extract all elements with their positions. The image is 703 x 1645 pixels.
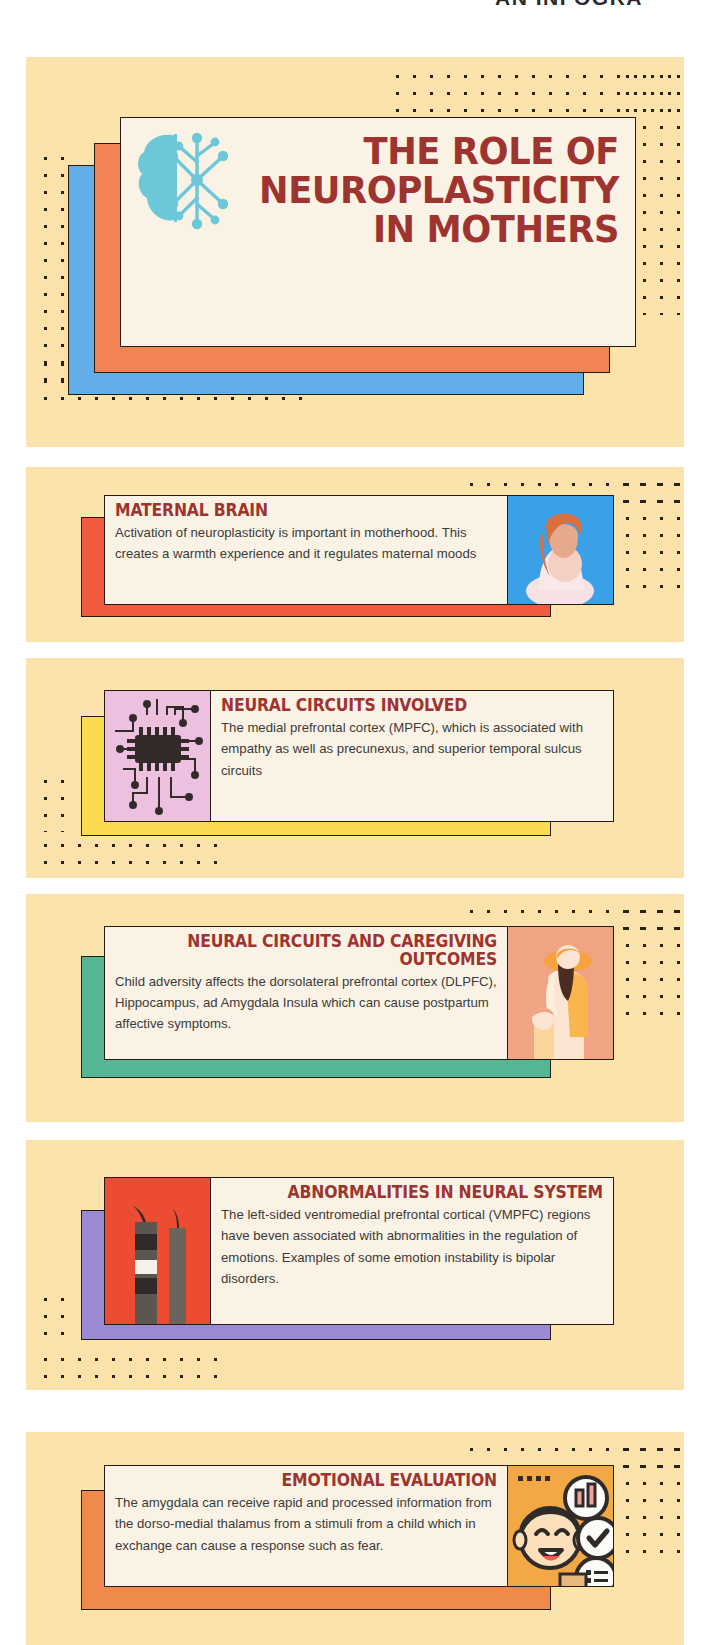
dot-grid-top-right (386, 65, 684, 119)
card-body: The medial prefrontal cortex (MPFC), whi… (221, 717, 603, 781)
dot-grid-right-column (616, 473, 684, 597)
card-neural-circuits-involved: NEURAL CIRCUITS INVOLVED The medial pref… (104, 690, 614, 822)
card-panel-maternal-brain: MATERNAL BRAIN Activation of neuroplasti… (26, 467, 684, 642)
dot-grid-right-column (616, 900, 684, 1028)
dot-grid-bottom-left (34, 147, 72, 387)
microchip-circuit-illustration (105, 691, 211, 821)
card-title: NEURAL CIRCUITS AND CAREGIVING OUTCOMES (146, 933, 497, 969)
card-title: NEURAL CIRCUITS INVOLVED (221, 697, 572, 715)
card-maternal-brain: MATERNAL BRAIN Activation of neuroplasti… (104, 495, 614, 605)
card-body: Child adversity affects the dorsolateral… (115, 971, 497, 1035)
card-title: ABNORMALITIES IN NEURAL SYSTEM (252, 1184, 603, 1202)
dot-grid-bottom-row (34, 834, 224, 872)
card-text-block: EMOTIONAL EVALUATION The amygdala can re… (105, 1466, 507, 1586)
card-body: The amygdala can receive rapid and proce… (115, 1492, 497, 1556)
card-title: MATERNAL BRAIN (115, 502, 466, 520)
header-card: THE ROLE OF NEUROPLASTICITY IN MOTHERS (120, 117, 636, 347)
card-title: EMOTIONAL EVALUATION (146, 1472, 497, 1490)
card-abnormalities: ABNORMALITIES IN NEURAL SYSTEM The left-… (104, 1177, 614, 1325)
card-panel-abnormalities: ABNORMALITIES IN NEURAL SYSTEM The left-… (26, 1140, 684, 1390)
person-with-chat-bubbles-illustration (507, 1466, 613, 1586)
top-banner-text: AN INFOGRA (495, 0, 643, 10)
page-title-line-1: THE ROLE OF (247, 132, 619, 171)
card-emotional-evaluation: EMOTIONAL EVALUATION The amygdala can re… (104, 1465, 614, 1587)
page-title-line-3: IN MOTHERS (247, 210, 619, 249)
brain-neuron-icon (133, 128, 229, 233)
card-text-block: NEURAL CIRCUITS INVOLVED The medial pref… (211, 691, 613, 821)
page-title: THE ROLE OF NEUROPLASTICITY IN MOTHERS (247, 132, 619, 249)
top-banner-strip: AN INFOGRA (0, 0, 703, 40)
dot-grid-bottom-row (34, 1348, 224, 1386)
card-panel-emotional-evaluation: EMOTIONAL EVALUATION The amygdala can re… (26, 1432, 684, 1645)
dot-grid-right-column (616, 1438, 684, 1566)
card-text-block: MATERNAL BRAIN Activation of neuroplasti… (105, 496, 507, 604)
card-panel-caregiving-outcomes: NEURAL CIRCUITS AND CAREGIVING OUTCOMES … (26, 894, 684, 1122)
mother-and-child-illustration (507, 927, 613, 1059)
card-text-block: NEURAL CIRCUITS AND CAREGIVING OUTCOMES … (105, 927, 507, 1059)
dynamite-sticks-illustration (105, 1178, 211, 1324)
pregnant-woman-photo (507, 496, 613, 604)
card-caregiving-outcomes: NEURAL CIRCUITS AND CAREGIVING OUTCOMES … (104, 926, 614, 1060)
card-body: The left-sided ventromedial prefrontal c… (221, 1204, 603, 1290)
page-title-line-2: NEUROPLASTICITY (247, 171, 619, 210)
card-text-block: ABNORMALITIES IN NEURAL SYSTEM The left-… (211, 1178, 613, 1324)
card-body: Activation of neuroplasticity is importa… (115, 522, 497, 565)
dot-grid-left-column (34, 1288, 72, 1348)
header-panel: THE ROLE OF NEUROPLASTICITY IN MOTHERS (26, 57, 684, 447)
card-panel-neural-circuits-involved: NEURAL CIRCUITS INVOLVED The medial pref… (26, 658, 684, 878)
dot-grid-left-column (34, 770, 72, 832)
